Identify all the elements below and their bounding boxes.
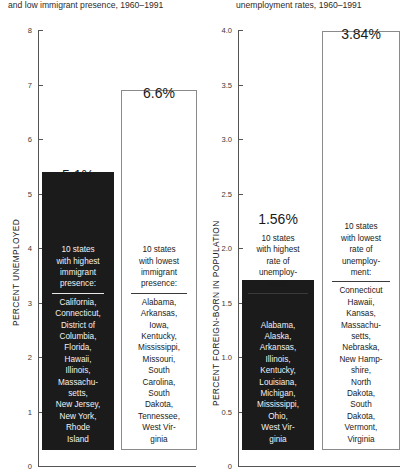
y-axis-tick-label: 3.0 <box>221 135 232 144</box>
y-axis-tick-label: 2 <box>28 353 32 362</box>
y-axis-tick <box>38 139 43 140</box>
y-axis-tick-label: 6 <box>28 135 32 144</box>
bar-state-list: Alabama,Arkansas,Iowa,Kentucky,Mississip… <box>125 297 193 445</box>
left-x-axis-baseline <box>38 466 196 467</box>
bar-header-label-outside: 10 stateswith highestrate ofunemploy-men… <box>242 233 314 290</box>
bar-divider <box>52 293 104 294</box>
bar-header-label: 10 stateswith lowestimmigrantpresence: <box>125 244 193 290</box>
bar-value-label: 5.1% <box>62 167 94 183</box>
y-axis-tick-label: 1.5 <box>221 298 232 307</box>
bar-divider-outside <box>248 293 308 294</box>
y-axis-tick-label: 2.0 <box>221 244 232 253</box>
y-axis-tick-label: 0 <box>228 462 232 471</box>
bar-text-block: 10 stateswith lowestimmigrantpresence:Al… <box>122 244 196 445</box>
y-axis-tick-label: 0 <box>28 462 32 471</box>
bar-divider <box>131 293 187 294</box>
bar-value-label: 6.6% <box>143 85 175 101</box>
left-chart-title: and low immigrant presence, 1960–1991 <box>8 0 163 11</box>
left-chart-panel: 012345678 PERCENT UNEMPLOYED 10 stateswi… <box>0 16 202 463</box>
y-axis-tick-label: 8 <box>28 26 32 35</box>
y-axis-tick-label: 7 <box>28 80 32 89</box>
bar-header-label: 10 stateswith lowestrate ofunemploy-ment… <box>326 221 396 278</box>
y-axis-tick-label: 0.5 <box>221 407 232 416</box>
y-axis-tick-label: 4 <box>28 244 32 253</box>
y-axis-tick-label: 1 <box>28 407 32 416</box>
right-y-axis-title: PERCENT FOREIGN-BORN IN POPULATION <box>211 220 221 406</box>
y-axis-tick <box>238 194 243 195</box>
bar-state-list: ConnecticutHawaii,Kansas,Massachu-setts,… <box>326 285 396 445</box>
y-axis-tick-label: 3 <box>28 298 32 307</box>
bar-highest: 10 stateswith highestimmigrantpresence:C… <box>42 172 114 450</box>
y-axis-tick-label: 5 <box>28 189 32 198</box>
figure-titles: and low immigrant presence, 1960–1991 un… <box>0 0 405 16</box>
right-chart-title: unemployment rates, 1960–1991 <box>236 0 362 11</box>
bar-text-block: Alabama,Alaska,Arkansas,Illinois,Kentuck… <box>243 320 313 445</box>
bar-lowest: 10 stateswith lowestrate ofunemploy-ment… <box>322 31 400 450</box>
y-axis-tick <box>238 139 243 140</box>
left-y-axis-title: PERCENT UNEMPLOYED <box>11 219 21 326</box>
bar-state-list: Alabama,Alaska,Arkansas,Illinois,Kentuck… <box>246 320 310 445</box>
bar-state-list: California,Connecticut,District ofColumb… <box>46 297 110 445</box>
y-axis-tick <box>38 30 43 31</box>
y-axis-tick <box>238 466 243 467</box>
y-axis-tick <box>238 85 243 86</box>
left-y-axis-ticks: 012345678 <box>38 30 39 466</box>
y-axis-tick-label: 1.0 <box>221 353 232 362</box>
y-axis-tick <box>238 30 243 31</box>
y-axis-tick <box>38 466 43 467</box>
right-chart-panel: 00.51.01.52.02.53.03.54.0 PERCENT FOREIG… <box>202 16 405 463</box>
y-axis-tick <box>38 85 43 86</box>
bar-divider <box>332 281 390 282</box>
bar-highest: Alabama,Alaska,Arkansas,Illinois,Kentuck… <box>242 280 314 450</box>
bar-lowest: 10 stateswith lowestimmigrantpresence:Al… <box>121 90 197 450</box>
bar-header-label: 10 stateswith highestimmigrantpresence: <box>46 244 110 290</box>
bar-text-block: 10 stateswith highestimmigrantpresence:C… <box>43 244 113 445</box>
bar-value-label: 3.84% <box>341 26 381 42</box>
bar-value-label: 1.56% <box>258 211 298 227</box>
right-x-axis-baseline <box>238 466 400 467</box>
y-axis-tick-label: 3.5 <box>221 80 232 89</box>
bar-text-block: 10 stateswith lowestrate ofunemploy-ment… <box>323 221 399 445</box>
right-y-axis-ticks: 00.51.01.52.02.53.03.54.0 <box>238 30 239 466</box>
y-axis-tick-label: 2.5 <box>221 189 232 198</box>
y-axis-tick-label: 4.0 <box>221 26 232 35</box>
